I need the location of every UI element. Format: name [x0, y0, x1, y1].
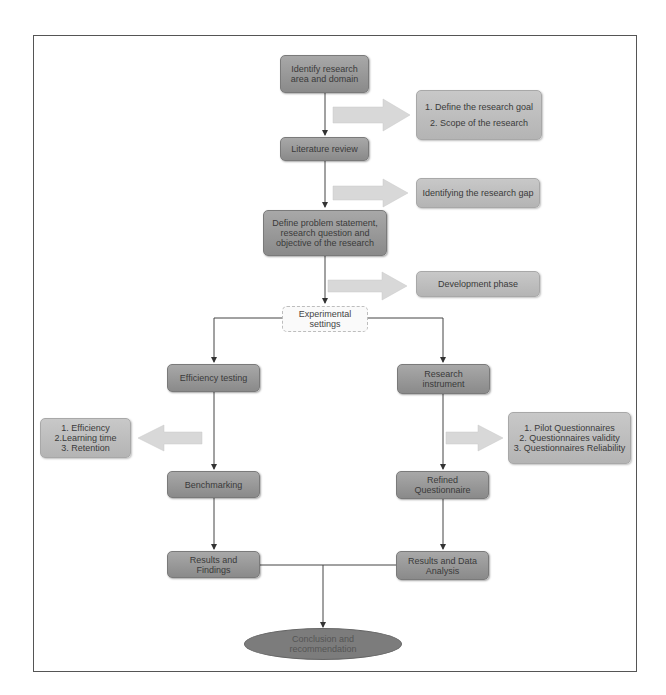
- node-benchmarking: Benchmarking: [167, 471, 260, 498]
- note-research-gap: Identifying the research gap: [416, 178, 540, 208]
- note-line: 2. Questionnaires validity: [519, 433, 620, 443]
- note-line: 1. Efficiency: [61, 423, 109, 433]
- node-label: Results and Findings: [172, 555, 255, 575]
- node-define-problem: Define problem statement, research quest…: [263, 210, 387, 256]
- note-development-phase: Development phase: [416, 271, 540, 297]
- node-experimental-settings: Experimental settings: [282, 306, 368, 332]
- note-line: 2.Learning time: [54, 433, 116, 443]
- node-label: Identify research area and domain: [285, 64, 364, 84]
- note-line: 3. Questionnaires Reliability: [514, 443, 626, 453]
- connector-lines: [0, 0, 666, 695]
- node-label: Literature review: [291, 144, 358, 154]
- node-label: Research instrument: [402, 369, 485, 389]
- node-label: Conclusion and recommendation: [275, 634, 371, 654]
- note-questionnaire-steps: 1. Pilot Questionnaires 2. Questionnaire…: [508, 412, 631, 464]
- node-label: Benchmarking: [185, 480, 243, 490]
- node-results-data-analysis: Results and Data Analysis: [396, 551, 489, 580]
- node-label: Experimental settings: [287, 309, 363, 329]
- block-arrow-questionnaire: [446, 425, 503, 451]
- block-arrow-efficiency: [138, 425, 202, 451]
- node-literature-review: Literature review: [280, 137, 369, 161]
- block-arrow-goal: [333, 99, 410, 131]
- block-arrow-gap: [333, 179, 408, 207]
- node-identify-research-area: Identify research area and domain: [280, 55, 369, 93]
- node-efficiency-testing: Efficiency testing: [167, 364, 260, 392]
- node-label: Define problem statement, research quest…: [268, 218, 382, 248]
- node-results-findings: Results and Findings: [167, 551, 260, 578]
- note-line: 3. Retention: [61, 443, 110, 453]
- note-goal-scope: 1. Define the research goal 2. Scope of …: [416, 90, 542, 140]
- note-efficiency-metrics: 1. Efficiency 2.Learning time 3. Retenti…: [40, 418, 131, 458]
- note-label: Development phase: [438, 279, 518, 289]
- note-label: Identifying the research gap: [422, 188, 533, 198]
- node-conclusion: Conclusion and recommendation: [244, 628, 402, 660]
- block-arrow-development: [328, 272, 407, 300]
- node-label: Results and Data Analysis: [401, 556, 484, 576]
- node-refined-questionnaire: Refined Questionnaire: [396, 471, 489, 499]
- note-line: 2. Scope of the research: [430, 118, 528, 128]
- node-label: Refined Questionnaire: [401, 475, 484, 495]
- note-line: 1. Pilot Questionnaires: [524, 423, 615, 433]
- node-label: Efficiency testing: [180, 373, 247, 383]
- node-research-instrument: Research instrument: [397, 364, 490, 394]
- note-line: 1. Define the research goal: [425, 102, 533, 112]
